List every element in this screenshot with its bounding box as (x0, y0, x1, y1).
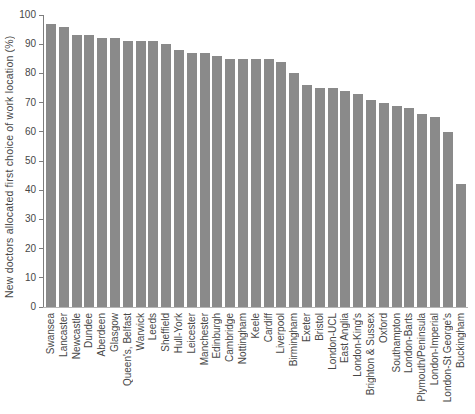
x-axis-label: London-King's (352, 313, 364, 377)
y-tick-mark (39, 161, 43, 162)
y-tick-mark (39, 219, 43, 220)
bar (84, 35, 94, 307)
bar (353, 94, 363, 307)
bar (251, 59, 261, 307)
x-axis-label: Cardiff (263, 313, 275, 342)
bar (456, 184, 466, 307)
y-tick-mark (39, 131, 43, 132)
x-axis-label: Warwick (135, 313, 147, 350)
x-axis-label: Queen's, Belfast (122, 313, 134, 386)
bar (404, 108, 414, 307)
bar (110, 38, 120, 307)
x-axis-label: Cambridge (224, 313, 236, 362)
bar (392, 106, 402, 307)
bar (97, 38, 107, 307)
y-tick-mark (39, 307, 43, 308)
x-axis-label: Dundee (83, 313, 95, 348)
bar (46, 24, 56, 307)
bar (379, 103, 389, 307)
y-tick-mark (39, 277, 43, 278)
bar (212, 56, 222, 307)
bar (302, 85, 312, 307)
y-tick-label: 100 (0, 9, 36, 21)
bar (289, 73, 299, 307)
bar (264, 59, 274, 307)
bar (366, 100, 376, 307)
x-axis-label: Lancaster (58, 313, 70, 357)
x-axis-label: Aberdeen (96, 313, 108, 356)
bar (174, 50, 184, 307)
bar (340, 91, 350, 307)
x-axis-label: Brighton & Sussex (365, 313, 377, 395)
x-axis-label: Oxford (378, 313, 390, 343)
y-tick-label: 50 (0, 155, 36, 167)
x-axis-label: London-St George's (442, 313, 454, 402)
x-axis-label: Nottingham (237, 313, 249, 364)
y-tick-mark (39, 102, 43, 103)
x-axis-label: Plymouth/Peninsula (416, 313, 428, 401)
y-tick-mark (39, 190, 43, 191)
x-axis-label: London-Barts (403, 313, 415, 373)
bar (136, 41, 146, 307)
bar (238, 59, 248, 307)
y-tick-label: 80 (0, 67, 36, 79)
y-tick-label: 90 (0, 38, 36, 50)
x-axis-label: Keele (250, 313, 262, 339)
y-tick-mark (39, 248, 43, 249)
x-axis-label: Manchester (199, 313, 211, 365)
y-tick-label: 30 (0, 213, 36, 225)
x-axis-label: Bristol (314, 313, 326, 341)
y-tick-label: 70 (0, 97, 36, 109)
bar (187, 53, 197, 307)
bar (72, 35, 82, 307)
bar (161, 44, 171, 307)
x-axis-label: Liverpool (275, 313, 287, 354)
bar (315, 88, 325, 307)
x-axis-label: Newcastle (71, 313, 83, 359)
bar (148, 41, 158, 307)
x-axis-label: Leicester (186, 313, 198, 354)
x-axis-label: Sheffield (160, 313, 172, 352)
x-axis-label: East Anglia (339, 313, 351, 363)
y-tick-mark (39, 44, 43, 45)
bar (417, 114, 427, 307)
x-axis-label: Leeds (147, 313, 159, 340)
x-axis-label: Buckingham (455, 313, 467, 368)
x-axis-label: Exeter (301, 313, 313, 342)
y-tick-mark (39, 15, 43, 16)
x-axis-line (43, 307, 468, 308)
bar (200, 53, 210, 307)
bar (276, 62, 286, 307)
y-tick-label: 20 (0, 243, 36, 255)
y-tick-label: 40 (0, 184, 36, 196)
x-axis-label: London-Imperial (429, 313, 441, 385)
bar (328, 88, 338, 307)
x-axis-label: Birmingham (288, 313, 300, 366)
x-axis-label: Glasgow (109, 313, 121, 352)
y-tick-label: 0 (0, 301, 36, 313)
x-axis-label: London-UCL (327, 313, 339, 370)
bar-chart: New doctors allocated first choice of wo… (0, 0, 475, 414)
x-axis-label: Hull-York (173, 313, 185, 353)
x-axis-label: Edinburgh (211, 313, 223, 359)
bar (123, 41, 133, 307)
y-tick-label: 10 (0, 272, 36, 284)
bar (225, 59, 235, 307)
x-axis-label: Southampton (391, 313, 403, 373)
bar (59, 27, 69, 307)
bar (443, 132, 453, 307)
y-axis-line (43, 15, 44, 307)
bar (430, 117, 440, 307)
y-tick-label: 60 (0, 126, 36, 138)
x-axis-label: Swansea (45, 313, 57, 354)
y-tick-mark (39, 73, 43, 74)
